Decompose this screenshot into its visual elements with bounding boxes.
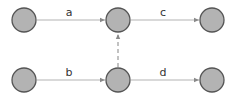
node-bottom-right <box>200 68 224 92</box>
edge-label-a: a <box>66 7 73 18</box>
edge-label-c: c <box>160 7 166 18</box>
node-top-middle <box>106 8 130 32</box>
edge-label-d: d <box>160 67 167 78</box>
node-top-left <box>12 8 36 32</box>
node-bottom-left <box>12 68 36 92</box>
edge-label-b: b <box>66 67 73 78</box>
diagram-canvas <box>0 0 241 98</box>
node-bottom-middle <box>106 68 130 92</box>
node-top-right <box>200 8 224 32</box>
